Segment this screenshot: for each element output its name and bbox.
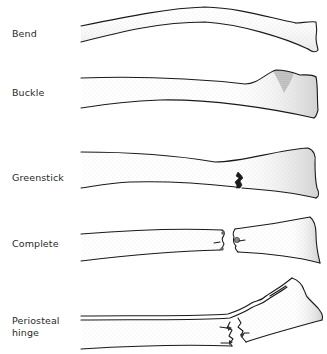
- bone-greenstick: [81, 148, 319, 198]
- fracture-types-diagram: Bend Buckle Greenstick Complete Perioste…: [0, 0, 327, 354]
- bone-periosteal-hinge: [81, 278, 323, 350]
- bone-complete: [81, 217, 320, 263]
- bone-buckle: [81, 70, 318, 118]
- bone-illustrations: [0, 0, 327, 354]
- bone-bend: [81, 7, 318, 52]
